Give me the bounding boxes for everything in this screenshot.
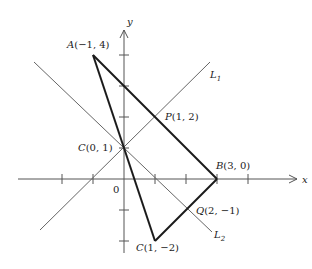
x-axis-label: x (302, 174, 308, 185)
point-A-label: A(−1, 4) (66, 39, 110, 50)
origin-label: 0 (113, 184, 119, 195)
line-L1-label: L1 (209, 69, 221, 83)
svg-text:C(0, 1): C(0, 1) (78, 142, 113, 153)
point-Q-label: Q(2, −1) (196, 205, 240, 216)
point-C-top-label: C(0, 1) (78, 142, 113, 153)
x-axis (18, 175, 297, 183)
svg-text:L2: L2 (213, 229, 226, 243)
svg-text:Q(2, −1): Q(2, −1) (196, 205, 240, 216)
coordinate-diagram: y x 0 A(−1, 4) P(1, 2) C(0, 1) B(3, 0) Q… (0, 0, 312, 269)
point-P-label: P(1, 2) (164, 111, 199, 122)
y-axis-label: y (126, 16, 133, 27)
svg-text:P(1, 2): P(1, 2) (164, 111, 199, 122)
point-B-label: B(3, 0) (215, 160, 250, 171)
svg-text:C(1, −2): C(1, −2) (136, 242, 179, 253)
svg-text:A(−1, 4): A(−1, 4) (66, 39, 110, 50)
svg-text:B(3, 0): B(3, 0) (215, 160, 250, 171)
svg-text:L1: L1 (209, 69, 221, 83)
point-C-bottom-label: C(1, −2) (136, 242, 179, 253)
line-L2-label: L2 (213, 229, 226, 243)
